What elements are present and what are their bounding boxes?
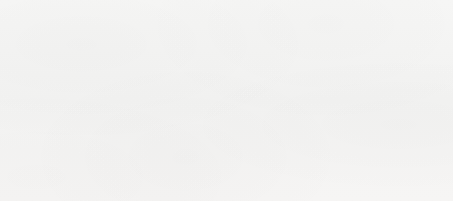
x-tick--20	[140, 154, 141, 160]
category-label-race-and-characteristics: Considering race and individual's charac…	[0, 90, 172, 115]
x-tick-100	[368, 154, 369, 160]
x-tick-60	[292, 154, 293, 160]
category-label-line2: background	[18, 64, 172, 76]
category-label-line1: … and socioeconomic	[26, 52, 128, 63]
x-tick-label-0: 0	[175, 163, 181, 175]
x-axis-title: Increased risk for blacks relative to wh…	[0, 181, 453, 192]
x-tick-0	[178, 154, 179, 160]
bar-race-only	[178, 133, 404, 143]
x-axis-line	[140, 159, 406, 160]
bar-socioeconomic-background	[178, 55, 199, 65]
x-tick-120	[406, 154, 407, 160]
category-label-socioeconomic-background: … and socioeconomic background	[0, 52, 172, 77]
x-tick-80	[330, 154, 331, 160]
category-label-race-only: Considering race only	[0, 136, 172, 148]
category-label-line2: have wealth	[18, 24, 172, 36]
x-tick-label-120: 120	[397, 163, 415, 175]
x-axis-title-text: Increased risk for blacks relative to wh…	[112, 181, 367, 192]
x-tick-label-20: 20	[210, 163, 222, 175]
category-label-line1: Considering race only	[18, 136, 119, 147]
x-tick-40	[254, 154, 255, 160]
bar-race-and-characteristics	[178, 93, 395, 103]
category-label-parents-wealth: … and whether parents have wealth	[0, 12, 172, 37]
x-tick-label-60: 60	[286, 163, 298, 175]
bar-chart-figure: … and whether parents have wealth … and …	[0, 0, 453, 201]
category-label-line2: individual's characteristics	[18, 102, 172, 114]
category-label-line1: … and whether parents	[18, 12, 126, 23]
x-tick-label--20: –20	[131, 163, 149, 175]
category-label-line1: Considering race and	[18, 90, 117, 101]
x-tick-20	[216, 154, 217, 160]
x-tick-label-100: 100	[359, 163, 377, 175]
x-tick-label-40: 40	[248, 163, 260, 175]
zero-reference-line	[178, 12, 179, 160]
x-tick-label-80: 80	[324, 163, 336, 175]
